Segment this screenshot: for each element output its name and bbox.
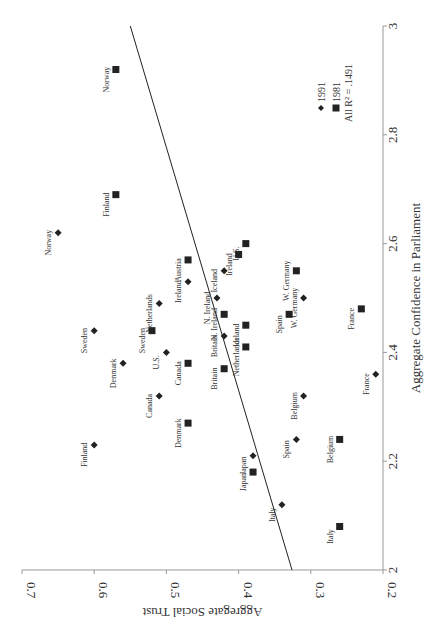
square-marker-1981	[185, 360, 192, 367]
point-label: Spain	[275, 315, 284, 333]
point-label: Japan	[239, 473, 248, 491]
square-marker-1981	[242, 322, 249, 329]
square-marker-1981	[242, 343, 249, 350]
point-label: Finland	[80, 443, 89, 467]
confidence-tick-label: 2.6	[385, 235, 400, 252]
point-label: Netherlands	[145, 294, 154, 333]
diamond-marker-1991	[156, 300, 163, 307]
axes: 0.20.30.40.50.60.722.22.42.62.83Aggregat…	[22, 23, 423, 620]
square-marker-1981	[185, 256, 192, 263]
point-label: Japan	[239, 457, 248, 475]
confidence-tick-label: 2.8	[385, 127, 400, 143]
square-marker-1981	[336, 436, 343, 443]
diamond-marker-1991	[91, 327, 98, 334]
point-label: Norway	[44, 230, 53, 256]
point-label: U.S.	[152, 355, 161, 369]
confidence-tick-label: 3	[385, 23, 400, 30]
square-marker-1981	[221, 311, 228, 318]
trust-axis-title: Aggregate Social Trust	[142, 605, 262, 620]
legend-label-1991: 1991	[316, 82, 327, 102]
square-marker-1981	[112, 66, 119, 73]
diamond-marker-1991	[91, 441, 98, 448]
point-label: Denmark	[174, 418, 183, 448]
point-label: Sweden	[80, 328, 89, 353]
diamond-marker-1991	[300, 392, 307, 399]
diamond-marker-1991	[213, 295, 220, 302]
diamond-marker-1991	[250, 452, 257, 459]
point-label: Norway	[102, 67, 111, 93]
confidence-tick-label: 2	[385, 567, 400, 574]
diamond-marker-1991	[278, 501, 285, 508]
point-label: Canada	[145, 393, 154, 417]
confidence-tick-label: 2.4	[385, 344, 400, 361]
point-label: W. Germany	[282, 261, 291, 302]
trust-tick-label: 0.3	[313, 582, 328, 598]
point-label: Britain	[210, 368, 219, 390]
point-label: Spain	[282, 440, 291, 458]
diamond-marker-1991	[120, 360, 127, 367]
point-label: Italy	[326, 529, 335, 544]
trust-tick-label: 0.6	[96, 582, 111, 599]
square-marker-1981	[112, 191, 119, 198]
square-marker-1981	[242, 240, 249, 247]
point-label: Denmark	[109, 358, 118, 388]
diamond-marker-1991	[163, 349, 170, 356]
square-marker-1981	[185, 420, 192, 427]
trust-tick-label: 0.2	[385, 582, 400, 598]
diamond-marker-1991	[300, 295, 307, 302]
point-label: N. Ireland	[210, 308, 219, 340]
diamond-marker-1991	[185, 278, 192, 285]
data-points: NorwayIrelandNetherlandsIcelandW. German…	[44, 66, 379, 544]
legend-label-1981: 1981	[331, 82, 342, 102]
square-marker-1981	[250, 469, 257, 476]
diamond-marker-1991	[156, 392, 163, 399]
scatter-chart: 0.20.30.40.50.60.722.22.42.62.83Aggregat…	[0, 0, 431, 638]
point-label: Canada	[174, 361, 183, 385]
point-label: U.S.	[232, 246, 241, 260]
confidence-axis-title: Aggregate Confidence in Parliament	[408, 202, 423, 393]
trust-tick-label: 0.5	[168, 582, 183, 598]
diamond-marker-1991	[55, 229, 62, 236]
point-label: Belgium	[326, 435, 335, 463]
r-squared-annotation: All R² = .1491	[343, 64, 354, 122]
diamond-marker-1991	[293, 436, 300, 443]
square-marker-1981	[293, 267, 300, 274]
chart-canvas: 0.20.30.40.50.60.722.22.42.62.83Aggregat…	[0, 0, 431, 638]
legend-diamond-icon	[318, 105, 324, 111]
square-marker-1981	[286, 311, 293, 318]
point-label: Ireland	[174, 280, 183, 303]
square-marker-1981	[336, 523, 343, 530]
point-label: Iceland	[210, 269, 219, 293]
point-label: Italy	[268, 507, 277, 522]
square-marker-1981	[358, 305, 365, 312]
trust-tick-label: 0.4	[241, 582, 256, 599]
confidence-tick-label: 2.2	[385, 453, 400, 469]
square-marker-1981	[221, 365, 228, 372]
point-label: Finland	[102, 192, 111, 216]
point-label: France	[347, 308, 356, 330]
point-label: Netherlands	[232, 338, 241, 377]
legend: 19911981All R² = .1491	[316, 64, 354, 122]
trust-tick-label: 0.7	[24, 582, 39, 599]
square-marker-1981	[148, 327, 155, 334]
point-label: France	[362, 373, 371, 395]
legend-square-icon	[333, 105, 340, 112]
point-label: Belgium	[290, 391, 299, 419]
diamond-marker-1991	[372, 371, 379, 378]
point-label: Sweden	[138, 328, 147, 353]
point-label: Austria	[174, 258, 183, 282]
